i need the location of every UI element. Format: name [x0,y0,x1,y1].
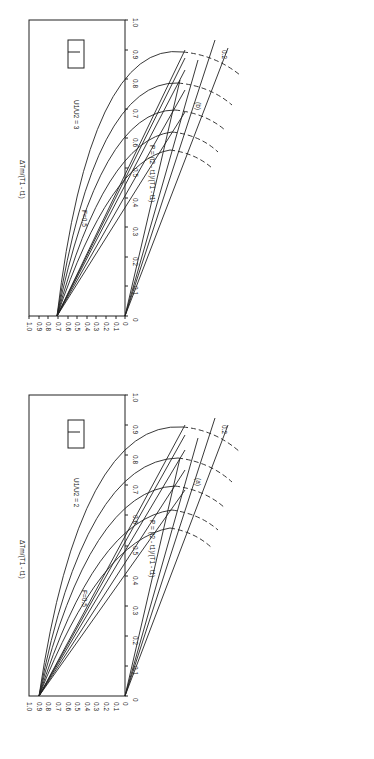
svg-text:0.8: 0.8 [45,702,52,711]
svg-text:0.8: 0.8 [45,322,52,331]
svg-text:0.3: 0.3 [93,702,100,711]
svg-text:0.1: 0.1 [113,322,120,331]
f-label-b: F=0.5 [81,210,88,227]
svg-text:1.0: 1.0 [132,393,139,402]
caption-b: (b) [194,102,202,110]
r-fan-lines [57,50,185,316]
svg-text:0: 0 [132,698,139,702]
svg-text:0.9: 0.9 [36,702,43,711]
svg-text:0.7: 0.7 [55,702,62,711]
ua-lines [125,418,228,696]
svg-text:0.6: 0.6 [65,322,72,331]
svg-text:0: 0 [122,702,129,706]
plot-frame [29,20,125,316]
r-curves [57,52,240,317]
u-tube-diagram-a [68,420,84,448]
svg-text:1.0: 1.0 [26,322,33,331]
svg-text:0.6: 0.6 [132,138,139,147]
svg-text:1.0: 1.0 [132,18,139,27]
svg-text:0.7: 0.7 [132,109,139,118]
chart-panel-b: 0 0.1 0.2 0.3 0.4 0.5 0.6 0.7 0.8 0.9 1.… [26,18,240,331]
y-axis-label-b: ΔTm/(T1 - t1) [18,160,26,199]
svg-text:0.8: 0.8 [132,455,139,464]
svg-text:0.5: 0.5 [74,702,81,711]
ratio-label-b: U1/U2 = 3 [73,100,80,130]
y-axis-label-a: ΔTm/(T1 - t1) [18,540,26,579]
dtm-axis-tick-labels: 1.0 0.9 0.8 0.7 0.6 0.5 0.4 0.3 0.2 0.1 … [26,702,129,711]
svg-text:0.3: 0.3 [93,322,100,331]
svg-text:0.4: 0.4 [84,702,91,711]
svg-text:0.5: 0.5 [74,322,81,331]
ua-lines [125,40,228,316]
r-label-02-b: 0.2 [221,50,228,59]
x-axis-label-b: P = (t2 - t1)/(T1 - t1) [148,145,156,203]
svg-text:0.9: 0.9 [36,322,43,331]
dtm-axis-tick-labels: 1.0 0.9 0.8 0.7 0.6 0.5 0.4 0.3 0.2 0.1 … [26,322,129,331]
svg-text:0: 0 [122,322,129,326]
svg-text:0.2: 0.2 [103,322,110,331]
svg-text:0.6: 0.6 [65,702,72,711]
svg-text:0.7: 0.7 [55,322,62,331]
chart-panel-a: 0 0.1 0.2 0.3 0.4 0.5 0.6 0.7 0.8 0.9 1.… [26,393,240,711]
svg-text:0.3: 0.3 [132,606,139,615]
caption-a: (a) [194,478,202,486]
svg-text:0.3: 0.3 [132,227,139,236]
svg-text:0.4: 0.4 [132,198,139,207]
figure: 0 0.1 0.2 0.3 0.4 0.5 0.6 0.7 0.8 0.9 1.… [0,0,374,759]
r-label-02-a: 0.2 [221,425,228,434]
ratio-label-a: U1/U2 = 2 [73,478,80,508]
x-axis-label-a: P = (t2 - t1)/(T1 - t1) [148,520,156,578]
svg-text:0.8: 0.8 [132,79,139,88]
svg-text:0.4: 0.4 [132,576,139,585]
svg-text:0.9: 0.9 [132,50,139,59]
svg-text:0.9: 0.9 [132,425,139,434]
svg-text:0.4: 0.4 [84,322,91,331]
svg-text:0.2: 0.2 [103,702,110,711]
r-curves [39,427,240,696]
svg-text:0: 0 [132,318,139,322]
u-tube-diagram-b [68,40,84,68]
svg-text:0.1: 0.1 [113,702,120,711]
svg-text:1.0: 1.0 [26,702,33,711]
svg-text:0.7: 0.7 [132,485,139,494]
f-label-a: F=0.5 [81,590,88,607]
plot-frame [29,395,125,696]
